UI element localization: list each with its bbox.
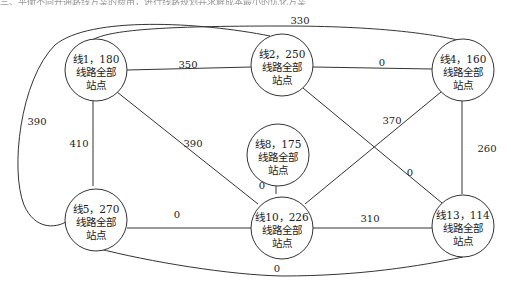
edge-label-n1-n5: 410 <box>69 138 88 149</box>
edge-label-n2-n4: 0 <box>379 57 385 68</box>
edge-label-n2-n5: 390 <box>27 116 46 127</box>
edge-label-n5-n13: 0 <box>274 263 280 274</box>
node-line13: 线13，114 线路全部 站点 <box>432 195 494 257</box>
edge-label-n4-n10: 370 <box>382 115 401 126</box>
edge-n2-n4 <box>313 67 432 69</box>
node-line2: 线2，250 线路全部 站点 <box>251 34 313 96</box>
node-subtitle2: 站点 <box>453 79 473 91</box>
node-subtitle2: 站点 <box>272 74 292 86</box>
edge-label-n1-n4: 330 <box>290 15 309 26</box>
node-subtitle2: 站点 <box>268 164 288 176</box>
node-subtitle: 线路全部 <box>443 222 483 234</box>
node-subtitle: 线路全部 <box>76 66 116 78</box>
edge-label-n2-n13: 0 <box>407 167 413 178</box>
node-line10: 线10，226 线路全部 站点 <box>251 197 313 259</box>
node-title: 线4，160 <box>440 53 487 65</box>
node-subtitle2: 站点 <box>86 229 106 241</box>
node-line5: 线5，270 线路全部 站点 <box>65 189 127 251</box>
node-title: 线13，114 <box>436 209 490 221</box>
node-title: 线5，270 <box>73 203 120 215</box>
node-subtitle: 线路全部 <box>443 66 483 78</box>
node-subtitle2: 站点 <box>453 235 473 247</box>
node-subtitle: 线路全部 <box>76 216 116 228</box>
edge-label-n10-n13: 310 <box>360 213 379 224</box>
node-title: 线10，226 <box>255 211 309 223</box>
node-subtitle: 线路全部 <box>258 151 298 163</box>
node-subtitle2: 站点 <box>86 79 106 91</box>
edge-n4-n10 <box>305 92 441 204</box>
node-title: 线8，175 <box>255 138 302 150</box>
edge-label-n1-n10: 390 <box>183 138 202 149</box>
edge-label-n4-n13: 260 <box>477 143 496 154</box>
edge-label-n1-n2: 350 <box>178 59 197 70</box>
node-subtitle2: 站点 <box>272 237 292 249</box>
node-title: 线1，180 <box>73 53 120 65</box>
edge-n2-n5 <box>18 24 270 225</box>
node-title: 线2，250 <box>259 48 306 60</box>
node-line8: 线8，175 线路全部 站点 <box>247 124 309 186</box>
node-subtitle: 线路全部 <box>262 61 302 73</box>
edge-n2-n13 <box>303 88 442 203</box>
node-subtitle: 线路全部 <box>262 224 302 236</box>
node-line4: 线4，160 线路全部 站点 <box>432 39 494 101</box>
edge-label-n5-n10: 0 <box>174 209 180 220</box>
node-line1: 线1，180 线路全部 站点 <box>65 39 127 101</box>
network-diagram: 350 0 330 390 410 390 370 0 260 0 0 310 … <box>0 0 511 288</box>
